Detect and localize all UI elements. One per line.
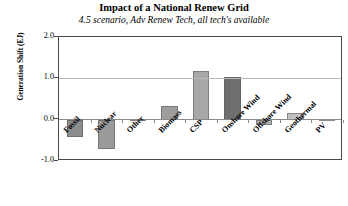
bar-slot — [59, 37, 91, 159]
y-tick-label: 2.0 — [24, 31, 54, 40]
y-tick-mark — [54, 36, 58, 37]
chart-subtitle: 4.5 scenario, Adv Renew Tech, all tech's… — [0, 15, 348, 25]
y-tick-label: -1.0 — [24, 155, 54, 164]
y-tick-mark — [54, 160, 58, 161]
y-tick-mark — [54, 77, 58, 78]
y-tick-label: 1.0 — [24, 72, 54, 81]
bar-slot — [91, 37, 123, 159]
bar-slot — [122, 37, 154, 159]
x-tick-mark — [343, 120, 344, 123]
bar-slot — [311, 37, 343, 159]
bar-slot — [217, 37, 249, 159]
bar-slot — [154, 37, 186, 159]
y-tick-label: 0.0 — [24, 114, 54, 123]
gridline — [59, 78, 341, 79]
chart-title: Impact of a National Renew Grid — [0, 2, 348, 13]
bar-slot — [185, 37, 217, 159]
y-tick-mark — [54, 118, 58, 119]
plot-area — [58, 36, 342, 160]
chart-figure: Impact of a National Renew Grid 4.5 scen… — [0, 0, 348, 206]
bars-layer — [59, 37, 341, 159]
